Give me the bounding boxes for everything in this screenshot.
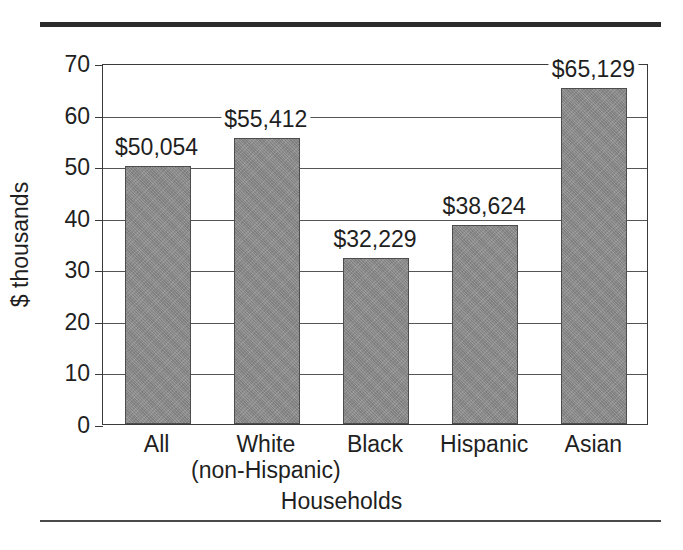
y-tick-label-20: 20 [28, 311, 90, 334]
y-axis-title: $ thousands [7, 144, 34, 344]
y-tick-label-50: 50 [28, 156, 90, 179]
y-tick-mark-60 [95, 117, 103, 118]
x-tick-label-asian: Asian [565, 432, 623, 458]
top-rule [40, 22, 661, 27]
bar-hispanic[interactable] [452, 225, 518, 424]
bar-black[interactable] [343, 258, 409, 424]
bar-all[interactable] [125, 166, 191, 424]
y-tick-label-10: 10 [28, 362, 90, 385]
x-tick-label-black: Black [347, 432, 403, 458]
x-tick-label-line1: Black [347, 432, 403, 458]
bar-value-label-all: $50,054 [112, 136, 201, 159]
y-tick-label-0: 0 [28, 414, 90, 437]
bar-value-label-white: $55,412 [221, 108, 310, 131]
y-tick-mark-40 [95, 220, 103, 221]
y-tick-mark-70 [95, 65, 103, 66]
figure-container: Households 010203040506070$ thousands$50… [0, 0, 683, 550]
bar-value-label-asian: $65,129 [549, 58, 638, 81]
y-tick-mark-50 [95, 168, 103, 169]
bar-asian[interactable] [561, 88, 627, 424]
y-tick-label-30: 30 [28, 259, 90, 282]
x-tick-label-line1: Asian [565, 432, 623, 458]
bar-white[interactable] [234, 138, 300, 424]
x-tick-label-line1: All [144, 432, 170, 458]
x-tick-label-line1: Hispanic [440, 432, 528, 458]
bar-value-label-hispanic: $38,624 [440, 195, 529, 218]
x-tick-label-all: All [144, 432, 170, 458]
x-tick-label-line1: White [191, 432, 341, 458]
bar-value-label-black: $32,229 [330, 228, 419, 251]
y-tick-mark-0 [95, 426, 103, 427]
x-axis-title: Households [0, 488, 683, 515]
y-tick-mark-10 [95, 374, 103, 375]
y-tick-label-60: 60 [28, 105, 90, 128]
y-tick-mark-20 [95, 323, 103, 324]
x-tick-label-hispanic: Hispanic [440, 432, 528, 458]
x-tick-label-line2: (non-Hispanic) [191, 458, 341, 484]
y-tick-label-40: 40 [28, 208, 90, 231]
bottom-rule [40, 520, 661, 522]
y-tick-mark-30 [95, 271, 103, 272]
y-tick-label-70: 70 [28, 53, 90, 76]
x-tick-label-white: White(non-Hispanic) [191, 432, 341, 484]
